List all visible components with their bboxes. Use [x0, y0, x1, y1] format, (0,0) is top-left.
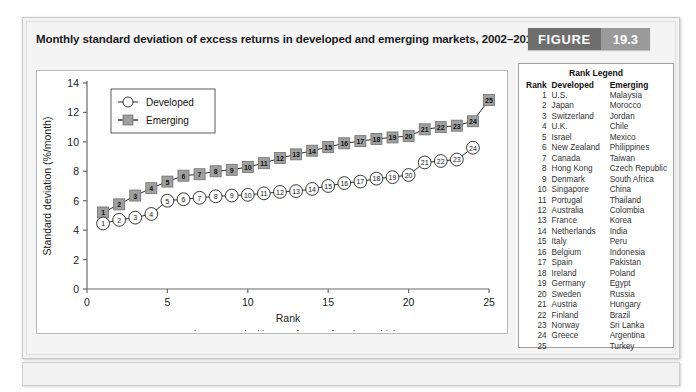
- rank-legend-row: 3SwitzerlandJordan: [525, 112, 667, 122]
- emerging-market-cell: Russia: [610, 290, 667, 300]
- emerging-market-cell: Chile: [610, 122, 667, 132]
- emerging-market-cell: South Africa: [610, 175, 667, 185]
- rank-legend-row: 5IsraelMexico: [525, 133, 667, 143]
- y-tick-label: 2: [73, 254, 79, 266]
- developed-market-cell: Finland: [552, 311, 610, 321]
- emerging-market-cell: Thailand: [610, 196, 667, 206]
- rank-cell: 9: [525, 175, 552, 185]
- developed-point-label: 18: [373, 175, 381, 182]
- developed-market-cell: Germany: [552, 279, 610, 289]
- developed-market-cell: Australia: [552, 206, 610, 216]
- rank-cell: 3: [525, 112, 552, 122]
- developed-point-label: 7: [198, 195, 202, 202]
- legend-developed-marker: [123, 97, 133, 107]
- rank-cell: 20: [525, 290, 552, 300]
- developed-market-cell: Portugal: [552, 196, 610, 206]
- rank-cell: 18: [525, 269, 552, 279]
- rank-cell: 8: [525, 164, 552, 174]
- y-tick-label: 4: [73, 224, 79, 236]
- legend-emerging-marker: [123, 115, 133, 125]
- developed-point-label: 5: [165, 198, 169, 205]
- rank-legend-row: 21AustriaHungary: [525, 300, 667, 310]
- emerging-market-cell: Taiwan: [610, 154, 667, 164]
- developed-point-label: 2: [117, 217, 121, 224]
- y-tick-label: 6: [73, 195, 79, 207]
- emerging-market-cell: Czech Republic: [610, 164, 667, 174]
- column-header-emerging: Emerging: [610, 80, 667, 91]
- developed-market-cell: U.K.: [552, 122, 610, 132]
- emerging-market-cell: Sri Lanka: [610, 321, 667, 331]
- figure-page: Monthly standard deviation of excess ret…: [0, 0, 696, 392]
- developed-point-label: 1: [101, 220, 105, 227]
- emerging-point-label: 16: [340, 140, 348, 147]
- emerging-market-cell: China: [610, 185, 667, 195]
- emerging-market-cell: Argentina: [610, 331, 667, 341]
- developed-market-cell: Belgium: [552, 248, 610, 258]
- rank-cell: 11: [525, 196, 552, 206]
- rank-cell: 22: [525, 311, 552, 321]
- rank-legend-row: 22FinlandBrazil: [525, 311, 667, 321]
- developed-point-label: 13: [292, 188, 300, 195]
- x-tick-label: 5: [164, 296, 170, 308]
- emerging-market-cell: Peru: [610, 237, 667, 247]
- rank-legend-row: 1U.S.Malaysia: [525, 91, 667, 101]
- emerging-market-cell: Hungary: [610, 300, 667, 310]
- y-tick-label: 8: [73, 165, 79, 177]
- emerging-point-label: 22: [437, 124, 445, 131]
- developed-point-label: 17: [356, 178, 364, 185]
- emerging-point-label: 6: [182, 173, 186, 180]
- developed-point-label: 19: [389, 174, 397, 181]
- page-bottom-band: [22, 362, 680, 386]
- developed-point-label: 11: [260, 190, 267, 197]
- developed-point-label: 23: [453, 156, 461, 163]
- developed-point-label: 15: [324, 183, 332, 190]
- rank-legend-row: 11PortugalThailand: [525, 196, 667, 206]
- developed-market-cell: New Zealand: [552, 143, 610, 153]
- emerging-point-label: 17: [356, 138, 364, 145]
- x-axis-label: Rank: [276, 312, 301, 324]
- rank-legend-row: 17SpainPakistan: [525, 258, 667, 268]
- sd-vs-rank-line-chart: 024681012140510152025RankStandard deviat…: [37, 71, 505, 331]
- rank-legend-table: Rank Developed Emerging 1U.S.Malaysia2Ja…: [525, 80, 667, 352]
- developed-market-cell: Singapore: [552, 185, 610, 195]
- x-tick-label: 10: [242, 296, 254, 308]
- rank-legend-row: 14NetherlandsIndia: [525, 227, 667, 237]
- rank-cell: 15: [525, 237, 552, 247]
- developed-point-label: 22: [437, 158, 445, 165]
- emerging-point-label: 4: [149, 185, 153, 192]
- chart-legend-box: [111, 89, 215, 133]
- developed-market-cell: Japan: [552, 101, 610, 111]
- rank-cell: 5: [525, 133, 552, 143]
- legend-emerging-label: Emerging: [146, 115, 189, 126]
- rank-legend-row: 12AustraliaColombia: [525, 206, 667, 216]
- rank-cell: 6: [525, 143, 552, 153]
- rank-cell: 19: [525, 279, 552, 289]
- emerging-market-cell: Pakistan: [610, 258, 667, 268]
- developed-market-cell: Israel: [552, 133, 610, 143]
- emerging-market-cell: Colombia: [610, 206, 667, 216]
- emerging-point-label: 23: [453, 123, 461, 130]
- rank-legend-row: 24GreeceArgentina: [525, 331, 667, 341]
- developed-point-label: 3: [133, 214, 137, 221]
- rank-cell: 10: [525, 185, 552, 195]
- emerging-point-label: 21: [421, 126, 429, 133]
- rank-legend-row: 23NorwaySri Lanka: [525, 321, 667, 331]
- figure-title: Monthly standard deviation of excess ret…: [36, 33, 506, 45]
- developed-market-cell: Hong Kong: [552, 164, 610, 174]
- emerging-market-cell: Mexico: [610, 133, 667, 143]
- emerging-market-cell: Indonesia: [610, 248, 667, 258]
- rank-legend-row: 7CanadaTaiwan: [525, 154, 667, 164]
- developed-market-cell: Austria: [552, 300, 610, 310]
- emerging-point-label: 3: [133, 193, 137, 200]
- y-tick-label: 10: [67, 136, 79, 148]
- rank-legend-row: 10SingaporeChina: [525, 185, 667, 195]
- column-header-rank: Rank: [525, 80, 552, 91]
- rank-cell: 14: [525, 227, 552, 237]
- emerging-market-cell: Malaysia: [610, 91, 667, 101]
- legend-developed-label: Developed: [146, 97, 194, 108]
- developed-point-label: 9: [230, 192, 234, 199]
- rank-legend-body: 1U.S.Malaysia2JapanMorocco3SwitzerlandJo…: [525, 91, 667, 352]
- figure-badge: FIGURE 19.3: [528, 28, 650, 50]
- rank-legend-row: 20SwedenRussia: [525, 290, 667, 300]
- rank-cell: 13: [525, 216, 552, 226]
